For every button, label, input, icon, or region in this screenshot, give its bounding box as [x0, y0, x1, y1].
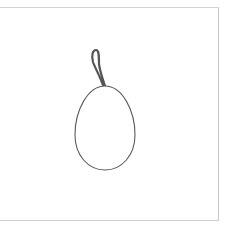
hanging-loop-icon — [92, 50, 106, 89]
egg-shape-icon — [75, 86, 135, 170]
egg-ornament-illustration — [0, 0, 225, 228]
